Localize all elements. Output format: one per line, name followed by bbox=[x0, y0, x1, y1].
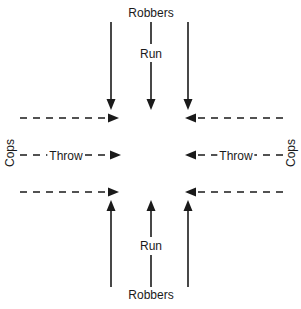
intersection-diagram: Robbers Run Cops Throw Throw Cops Run Ro… bbox=[0, 0, 301, 309]
label-robbers-bottom: Robbers bbox=[126, 288, 175, 302]
label-cops-right: Cops bbox=[284, 137, 298, 169]
robbers-up-right-arrow bbox=[184, 200, 193, 287]
robbers-down-right-arrow bbox=[184, 22, 193, 110]
robbers-down-left-arrow bbox=[107, 22, 116, 110]
cops-throw-upper-right-arrow bbox=[185, 114, 283, 123]
label-cops-left: Cops bbox=[3, 137, 17, 169]
label-run-top: Run bbox=[138, 47, 164, 61]
cops-throw-lower-right-arrow bbox=[185, 188, 283, 197]
label-throw-right: Throw bbox=[217, 149, 254, 163]
robbers-down-center-arrow bbox=[147, 22, 156, 110]
label-throw-left: Throw bbox=[47, 149, 84, 163]
cops-throw-lower-left-arrow bbox=[20, 188, 119, 197]
label-run-bottom: Run bbox=[138, 239, 164, 253]
label-robbers-top: Robbers bbox=[126, 6, 175, 20]
robbers-up-left-arrow bbox=[107, 200, 116, 287]
cops-throw-upper-left-arrow bbox=[20, 114, 119, 123]
